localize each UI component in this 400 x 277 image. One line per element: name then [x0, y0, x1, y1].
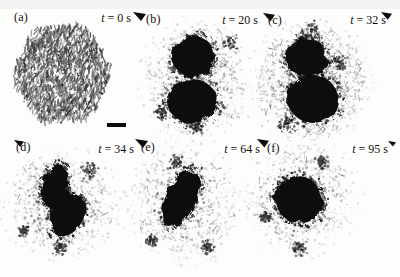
- top-edge-shade: [0, 0, 400, 9]
- panel-e-time: t = 64 s: [224, 142, 260, 157]
- panel-d-time: t = 34 s: [98, 142, 134, 157]
- time-value: = 20 s: [226, 13, 258, 27]
- time-value: = 95 s: [356, 142, 388, 156]
- panel-c-time: t = 32 s: [350, 13, 386, 28]
- figure: (a) t = 0 s (b) t = 20 s (c) t = 32 s (d…: [0, 0, 400, 277]
- panel-f-label: (f): [267, 141, 280, 156]
- corner-flag-icon: [388, 141, 396, 147]
- panel-a-texture-disc: [13, 21, 112, 126]
- panel-c-label: (c): [268, 13, 282, 28]
- panel-d-label: (d): [16, 140, 31, 155]
- panel-e-label: (e): [141, 140, 155, 155]
- micrograph-artwork: [0, 0, 400, 277]
- scale-bar: [107, 123, 126, 127]
- corner-flag-icon: [133, 12, 146, 21]
- time-value: = 34 s: [102, 142, 134, 156]
- time-value: = 0 s: [105, 11, 131, 25]
- panel-f-time: t = 95 s: [352, 142, 388, 157]
- panel-b-time: t = 20 s: [222, 13, 258, 28]
- panel-b-label: (b): [146, 12, 161, 27]
- time-value: = 32 s: [354, 13, 386, 27]
- panel-a-time: t = 0 s: [101, 11, 131, 26]
- panel-f-blobs: [269, 169, 329, 228]
- panel-a-label: (a): [14, 10, 28, 25]
- time-value: = 64 s: [228, 142, 260, 156]
